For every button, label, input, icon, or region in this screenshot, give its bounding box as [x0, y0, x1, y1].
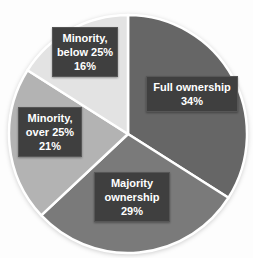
pie-label-percent: 29% — [97, 204, 167, 218]
pie-label-text: Full ownership — [149, 80, 235, 94]
pie-chart: Minority, below 25% 16% Full ownership 3… — [0, 0, 253, 258]
pie-label-majority-ownership: Majority ownership 29% — [94, 172, 170, 222]
pie-label-percent: 16% — [55, 59, 115, 73]
pie-label-text: Majority ownership — [97, 176, 167, 204]
pie-label-minority-below-25: Minority, below 25% 16% — [52, 27, 118, 77]
pie-label-percent: 21% — [21, 139, 79, 153]
pie-label-text: Minority, below 25% — [55, 31, 115, 59]
pie-label-full-ownership: Full ownership 34% — [146, 76, 238, 112]
pie-label-minority-over-25: Minority, over 25% 21% — [18, 107, 82, 157]
pie-label-percent: 34% — [149, 94, 235, 108]
pie-label-text: Minority, over 25% — [21, 111, 79, 139]
